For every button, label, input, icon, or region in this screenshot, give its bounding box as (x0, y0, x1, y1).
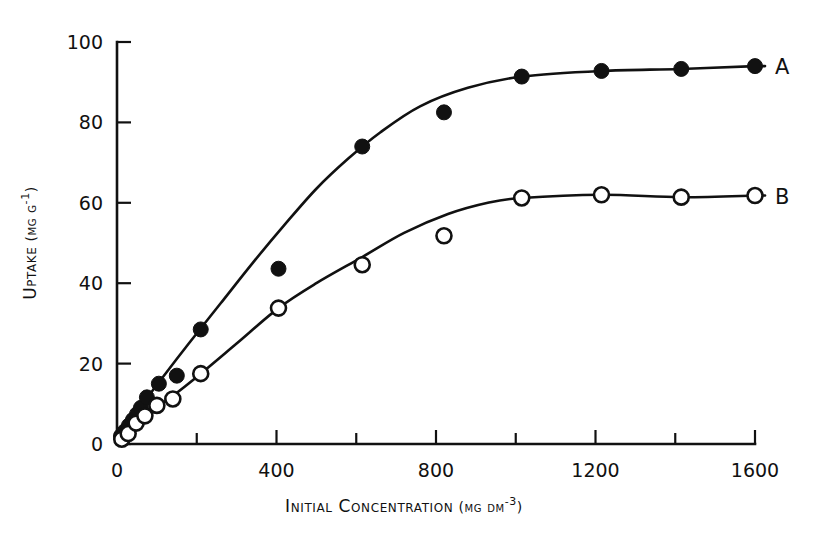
data-point-a (514, 69, 529, 84)
data-points-series-a (113, 59, 762, 444)
y-axis-title: Uptake (mg g-1) (19, 186, 40, 300)
y-tick-label: 0 (91, 433, 103, 455)
data-point-b (193, 366, 208, 381)
curves-group (117, 66, 755, 444)
y-tick-label: 20 (79, 353, 103, 375)
data-point-a (748, 59, 763, 74)
data-point-a (151, 376, 166, 391)
data-point-b (674, 190, 689, 205)
x-tick-label: 1200 (571, 459, 619, 481)
data-point-b (165, 391, 180, 406)
axes-group (117, 42, 755, 444)
uptake-vs-concentration-chart: 040080012001600 020406080100 A B Initial… (0, 0, 813, 535)
data-point-b (514, 190, 529, 205)
y-tick-label: 80 (79, 111, 103, 133)
y-tick-label: 100 (67, 31, 103, 53)
chart-figure: 040080012001600 020406080100 A B Initial… (0, 0, 813, 535)
x-tick-label: 800 (418, 459, 454, 481)
x-axis-tick-labels: 040080012001600 (111, 459, 779, 481)
x-axis-ticks (117, 430, 755, 444)
data-point-b (271, 301, 286, 316)
x-tick-label: 0 (111, 459, 123, 481)
data-point-a (355, 139, 370, 154)
x-tick-label: 400 (258, 459, 294, 481)
fitted-curve-series-a (117, 66, 755, 444)
y-tick-label: 40 (79, 272, 103, 294)
data-point-a (594, 63, 609, 78)
data-point-b (748, 188, 763, 203)
data-point-b (594, 187, 609, 202)
data-point-b (355, 257, 370, 272)
data-point-b (149, 398, 164, 413)
x-tick-label: 1600 (731, 459, 779, 481)
axis-lines (117, 42, 755, 444)
data-point-a (193, 322, 208, 337)
x-axis-title: Initial Concentration (mg dm-3) (285, 495, 523, 516)
data-point-a (271, 261, 286, 276)
y-axis-ticks (117, 42, 131, 444)
series-label-b: B (775, 185, 789, 209)
y-tick-label: 60 (79, 192, 103, 214)
data-points-series-b (114, 187, 762, 446)
data-point-b (436, 228, 451, 243)
y-axis-tick-labels: 020406080100 (67, 31, 103, 455)
series-label-a: A (775, 55, 790, 79)
data-point-a (169, 368, 184, 383)
data-point-a (436, 105, 451, 120)
data-point-a (674, 61, 689, 76)
